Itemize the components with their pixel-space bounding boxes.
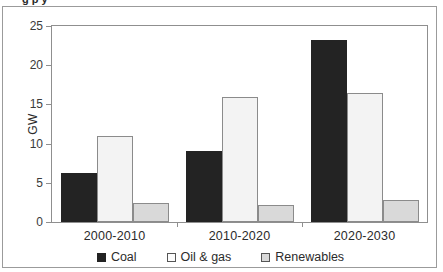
bar-oilgas-2000-2010 [97,136,133,222]
legend-swatch-oilgas-icon [167,253,176,262]
x-category-label-2020-2030: 2020-2030 [334,229,396,243]
y-tick-label: 25 [30,19,43,33]
x-category-label-2000-2010: 2000-2010 [84,229,146,243]
legend-label: Coal [111,250,137,264]
y-tick-label: 10 [30,137,43,151]
plot-area: 0510152025 [51,25,428,223]
bar-renewables-2020-2030 [383,200,419,222]
bar-renewables-2000-2010 [133,203,169,222]
x-tick-mark [177,222,178,227]
legend-swatch-coal-icon [97,253,106,262]
bar-coal-2020-2030 [311,40,347,222]
bar-oilgas-2010-2020 [222,97,258,222]
legend-swatch-renewables-icon [261,253,270,262]
bar-renewables-2010-2020 [258,205,294,222]
legend-label: Renewables [275,250,344,264]
legend-item-oilgas[interactable]: Oil & gas [167,250,232,264]
y-tick-label: 15 [30,97,43,111]
chart-legend: CoalOil & gasRenewables [3,250,438,264]
y-tick-label: 5 [36,176,43,190]
legend-item-renewables[interactable]: Renewables [261,250,344,264]
bar-coal-2010-2020 [186,151,222,222]
bar-coal-2000-2010 [61,173,97,222]
legend-item-coal[interactable]: Coal [97,250,137,264]
bar-group-2010-2020 [177,26,302,222]
legend-label: Oil & gas [181,250,232,264]
plot-inner: 0510152025 [52,26,427,222]
x-category-label-2010-2020: 2010-2020 [209,229,271,243]
chart-figure: GW 0510152025 CoalOil & gasRenewables 20… [2,6,437,268]
bar-oilgas-2020-2030 [347,93,383,222]
x-tick-mark [302,222,303,227]
y-tick-label: 0 [36,215,43,229]
bar-group-2020-2030 [302,26,427,222]
y-tick-label: 20 [30,58,43,72]
y-tick-mark [46,222,52,223]
bar-group-2000-2010 [52,26,177,222]
